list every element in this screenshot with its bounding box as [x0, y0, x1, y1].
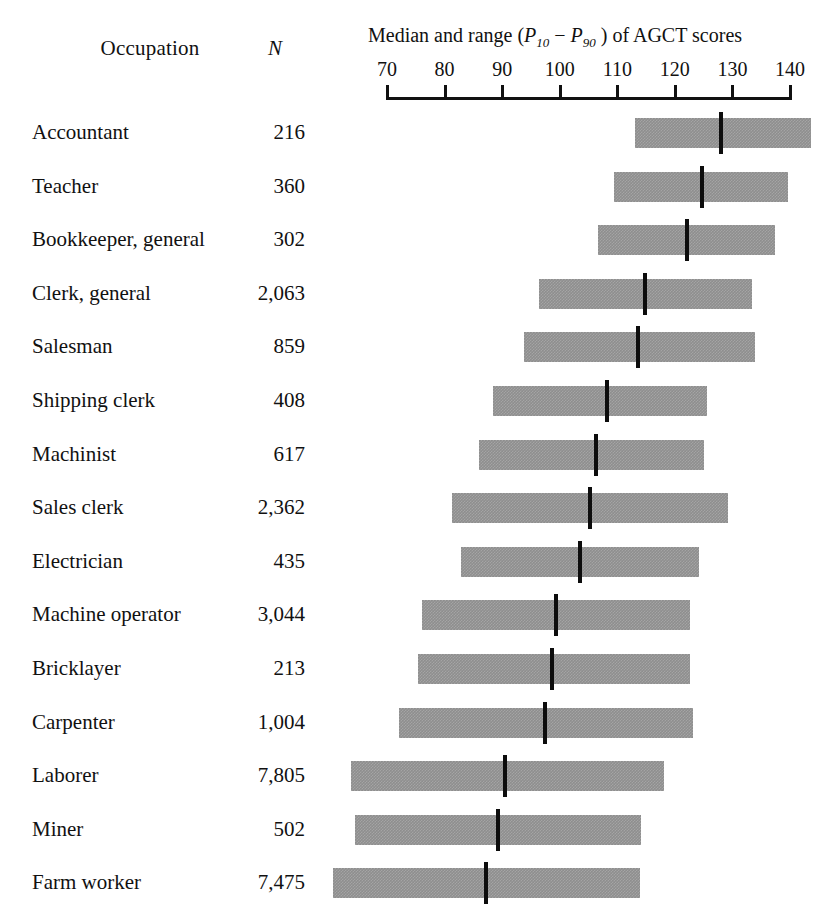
axis-tick-label: 110: [592, 58, 642, 81]
axis-tick: [731, 85, 734, 100]
axis-tick: [789, 85, 792, 100]
row-value-n: 408: [200, 388, 305, 413]
row-label-occupation: Shipping clerk: [32, 388, 155, 413]
axis-tick: [501, 85, 504, 100]
axis-title-dash: −: [549, 24, 570, 46]
axis-tick-label: 90: [477, 58, 527, 81]
row-label-occupation: Electrician: [32, 549, 123, 574]
axis-tick-label: 130: [707, 58, 757, 81]
axis-title-p10-symbol: P: [524, 24, 536, 46]
median-marker: [578, 541, 582, 583]
column-header-n: N: [245, 36, 305, 61]
median-marker: [636, 326, 640, 368]
row-value-n: 1,004: [200, 710, 305, 735]
row-value-n: 2,063: [200, 281, 305, 306]
axis-tick-label: 70: [362, 58, 412, 81]
median-marker: [484, 862, 488, 904]
axis-tick-label: 80: [420, 58, 470, 81]
median-marker: [503, 755, 507, 797]
row-value-n: 360: [200, 174, 305, 199]
axis-tick-label: 100: [535, 58, 585, 81]
row-label-occupation: Accountant: [32, 120, 129, 145]
row-label-occupation: Clerk, general: [32, 281, 151, 306]
median-marker: [700, 166, 704, 208]
row-value-n: 617: [200, 442, 305, 467]
median-marker: [588, 487, 592, 529]
axis-title-p10-subscript: 10: [536, 35, 549, 50]
row-label-occupation: Salesman: [32, 334, 112, 359]
row-label-occupation: Teacher: [32, 174, 98, 199]
column-header-occupation: Occupation: [30, 36, 270, 61]
median-marker: [643, 273, 647, 315]
row-label-occupation: Machine operator: [32, 602, 181, 627]
axis-title-p90-subscript: 90: [583, 35, 596, 50]
row-value-n: 2,362: [200, 495, 305, 520]
median-marker: [685, 219, 689, 261]
axis-tick: [559, 85, 562, 100]
median-marker: [594, 434, 598, 476]
row-value-n: 216: [200, 120, 305, 145]
axis-tick-label: 140: [765, 58, 815, 81]
axis-tick: [674, 85, 677, 100]
median-marker: [550, 648, 554, 690]
row-value-n: 502: [200, 817, 305, 842]
row-label-occupation: Miner: [32, 817, 83, 842]
row-label-occupation: Farm worker: [32, 870, 141, 895]
row-label-occupation: Bookkeeper, general: [32, 227, 205, 252]
median-marker: [719, 112, 723, 154]
row-label-occupation: Sales clerk: [32, 495, 124, 520]
agct-occupation-chart: Occupation N Median and range (P10 − P90…: [0, 0, 831, 908]
axis-title: Median and range (P10 − P90 ) of AGCT sc…: [368, 24, 828, 51]
median-marker: [605, 380, 609, 422]
row-label-occupation: Machinist: [32, 442, 116, 467]
axis-line: [387, 97, 790, 100]
range-bar: [351, 761, 664, 791]
row-value-n: 7,805: [200, 763, 305, 788]
row-value-n: 3,044: [200, 602, 305, 627]
axis-title-suffix: ) of AGCT scores: [596, 24, 742, 46]
range-bar: [493, 386, 707, 416]
median-marker: [554, 594, 558, 636]
axis-tick: [386, 85, 389, 100]
row-value-n: 7,475: [200, 870, 305, 895]
axis-tick: [444, 85, 447, 100]
axis-title-p90-symbol: P: [571, 24, 583, 46]
row-label-occupation: Carpenter: [32, 710, 115, 735]
row-value-n: 213: [200, 656, 305, 681]
row-value-n: 302: [200, 227, 305, 252]
row-value-n: 435: [200, 549, 305, 574]
axis-title-prefix: Median and range (: [368, 24, 524, 46]
median-marker: [496, 809, 500, 851]
axis-tick-label: 120: [650, 58, 700, 81]
row-value-n: 859: [200, 334, 305, 359]
range-bar: [479, 440, 704, 470]
row-label-occupation: Bricklayer: [32, 656, 121, 681]
row-label-occupation: Laborer: [32, 763, 98, 788]
axis-tick: [616, 85, 619, 100]
median-marker: [543, 702, 547, 744]
